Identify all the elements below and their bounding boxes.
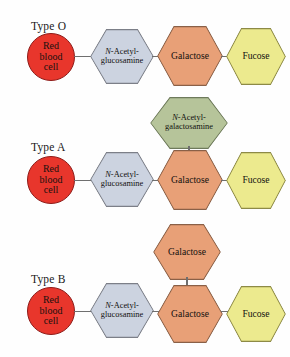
hexagon-fucose-o: Fucose xyxy=(226,28,286,85)
hexagon-n-acetylglucosamine-b: N-Acetyl- glucosamine xyxy=(90,283,154,338)
hexagon-galactose-branch-b: Galactose xyxy=(153,224,221,280)
fucose-text-o: Fucose xyxy=(240,51,271,61)
red-blood-cell-o: Red blood cell xyxy=(27,33,75,81)
type-label-a: Type A xyxy=(31,141,66,153)
galactose-branch-text-b: Galactose xyxy=(166,247,208,257)
glcnac-text-o: -Acetyl- xyxy=(111,47,139,56)
hexagon-galactose-b: Galactose xyxy=(157,285,223,343)
rbc-line-3: cell xyxy=(40,185,63,196)
glcnac-text2-o: glucosamine xyxy=(101,56,143,65)
glcnac-text-b: -Acetyl- xyxy=(111,301,139,310)
galactose-text-a: Galactose xyxy=(169,175,211,185)
hexagon-n-acetylglucosamine-o: N-Acetyl- glucosamine xyxy=(90,29,154,84)
rbc-line-1: Red xyxy=(40,41,63,52)
red-blood-cell-b: Red blood cell xyxy=(27,287,75,335)
hexagon-fucose-b: Fucose xyxy=(226,286,286,342)
glcnac-text-a: -Acetyl- xyxy=(111,170,139,179)
galnac-text-a: -Acetyl- xyxy=(178,113,206,122)
hexagon-n-acetylgalactosamine-a: N-Acetyl- galactosamine xyxy=(150,97,228,149)
connector-cell-to-glcnac-a xyxy=(74,180,93,181)
glcnac-text2-b: glucosamine xyxy=(101,310,143,319)
fucose-text-b: Fucose xyxy=(240,309,271,319)
galactose-text-o: Galactose xyxy=(169,51,211,61)
hexagon-fucose-a: Fucose xyxy=(226,152,286,209)
hexagon-n-acetylglucosamine-a: N-Acetyl- glucosamine xyxy=(90,152,154,207)
blood-type-antigen-diagram: Type O Red blood cell N-Acetyl- glucosam… xyxy=(0,0,290,357)
hexagon-galactose-a: Galactose xyxy=(157,150,223,210)
hexagon-galactose-o: Galactose xyxy=(157,26,223,86)
red-blood-cell-a: Red blood cell xyxy=(27,156,75,204)
type-label-o: Type O xyxy=(31,20,66,32)
connector-cell-to-glcnac-b xyxy=(74,311,93,312)
glcnac-text2-a: glucosamine xyxy=(101,179,143,188)
rbc-line-1: Red xyxy=(40,164,63,175)
fucose-text-a: Fucose xyxy=(240,175,271,185)
rbc-line-3: cell xyxy=(40,316,63,327)
rbc-line-1: Red xyxy=(40,295,63,306)
type-label-b: Type B xyxy=(31,273,66,285)
galactose-text-b: Galactose xyxy=(169,309,211,319)
galnac-text2-a: galactosamine xyxy=(165,122,213,131)
rbc-line-3: cell xyxy=(40,62,63,73)
